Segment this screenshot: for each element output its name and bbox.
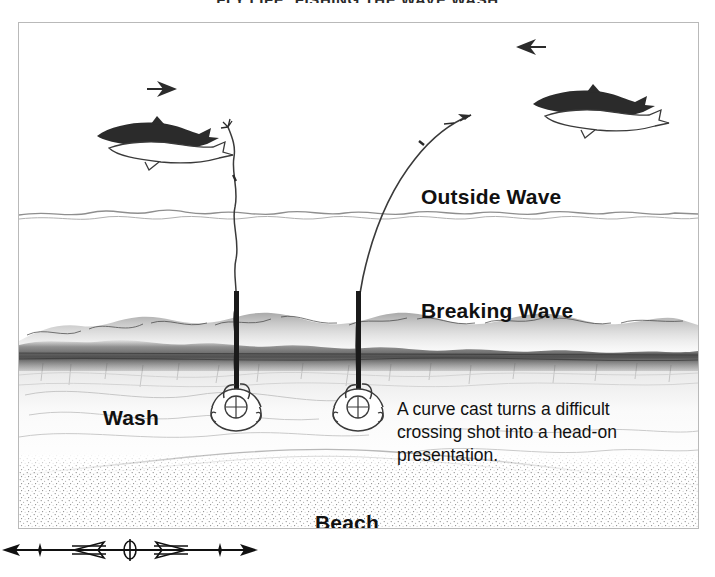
page-title: FLY LIFE: FISHING THE WAVE WASH [0,0,715,3]
illustration-frame: Outside Wave Breaking Wave Wash Beach A … [18,22,699,529]
double-arrow-divider-icon [0,537,260,563]
label-beach: Beach [315,512,379,529]
caption-line-3: presentation. [397,444,697,467]
caption-line-1: A curve cast turns a difficult [397,398,697,421]
label-breaking-wave: Breaking Wave [421,300,573,321]
label-outside-wave: Outside Wave [421,186,562,207]
divider-ornament [0,537,715,563]
label-wash: Wash [103,407,159,428]
caption-line-2: crossing shot into a head-on [397,421,697,444]
outside-water-band [19,23,698,218]
figure-caption: A curve cast turns a difficult crossing … [397,398,697,467]
